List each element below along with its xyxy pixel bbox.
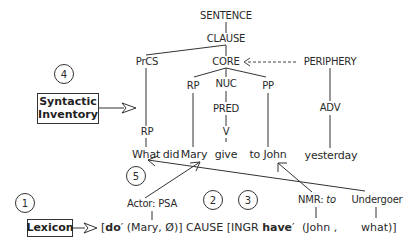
node-pred: PRED [213,104,239,114]
ls-what: what)] [361,222,397,233]
ls-have: have [262,221,292,234]
lexicon-box: Lexicon [27,219,73,237]
syntactic-inventory-label-line1: Syntactic [39,96,97,109]
syntactic-inventory-box: Syntactic Inventory [37,93,99,124]
word-what: What [132,149,160,160]
word-did: did [163,149,179,160]
node-periphery: PERIPHERY [304,57,357,67]
node-adv: ADV [320,103,341,113]
actor-psa-label: Actor: PSA [127,199,177,209]
ls-do: do [105,221,120,234]
nmr-label: NMR: to [298,195,336,205]
node-sentence: SENTENCE [200,11,252,21]
node-core: CORE [212,57,239,67]
ls-mary-cause-ingr: ′ (Mary, Ø)] CAUSE [INGR [121,221,262,234]
node-prcs: PrCS [136,57,159,67]
node-prcs-rp: RP [141,127,154,137]
word-to-john: to John [249,149,286,160]
node-v: V [223,127,230,137]
lexicon-label: Lexicon [26,222,73,235]
step-3-circle: 3 [238,190,258,210]
word-mary: Mary [181,149,207,160]
nmr-prefix: NMR: [298,194,326,205]
ls-john: (John , [302,222,337,233]
node-clause: CLAUSE [207,34,245,44]
node-core-rp: RP [187,81,200,91]
step-4-circle: 4 [54,64,74,84]
node-pp: PP [262,81,274,91]
nmr-to: to [326,194,336,205]
node-nuc: NUC [215,79,236,89]
ls-prime: ′ [292,221,295,234]
undergoer-label: Undergoer [351,195,402,205]
step-1-circle: 1 [15,193,35,213]
word-give: give [215,149,238,160]
syntactic-inventory-label-line2: Inventory [38,109,98,122]
step-5-circle: 5 [126,166,146,186]
step-2-circle: 2 [203,190,223,210]
logical-structure: [do′ (Mary, Ø)] CAUSE [INGR have′ [101,222,295,233]
word-yesterday: yesterday [305,150,358,161]
